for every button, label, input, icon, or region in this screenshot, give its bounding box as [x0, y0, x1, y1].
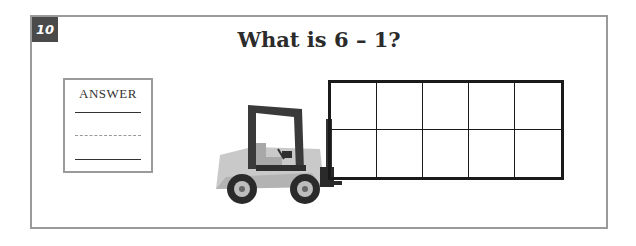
ten-frame-cell[interactable] [377, 83, 423, 130]
ten-frame-cell[interactable] [469, 130, 515, 177]
ten-frame-cell[interactable] [469, 83, 515, 130]
answer-box[interactable]: ANSWER [63, 78, 153, 173]
ten-frame-cell[interactable] [515, 83, 561, 130]
ten-frame-cell[interactable] [331, 83, 377, 130]
forklift-icon [212, 77, 342, 207]
answer-line-dashed [75, 135, 141, 136]
ten-frame-cell[interactable] [515, 130, 561, 177]
answer-label: ANSWER [65, 86, 151, 102]
answer-line-bottom [75, 159, 141, 160]
question-card: 10 What is 6 – 1? ANSWER [30, 15, 608, 229]
ten-frame [328, 80, 564, 180]
ten-frame-cell[interactable] [377, 130, 423, 177]
question-title: What is 6 – 1? [32, 27, 606, 52]
answer-line-top [75, 112, 141, 113]
ten-frame-cell[interactable] [423, 130, 469, 177]
ten-frame-cell[interactable] [423, 83, 469, 130]
ten-frame-cell[interactable] [331, 130, 377, 177]
